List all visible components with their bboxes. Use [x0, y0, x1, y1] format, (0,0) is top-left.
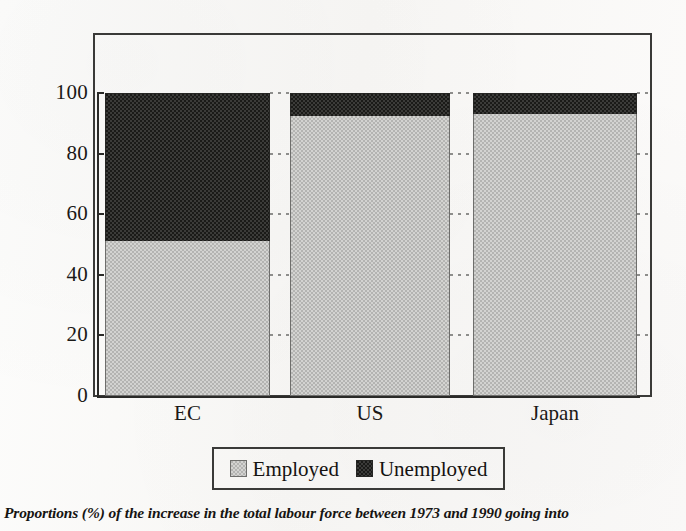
y-tick-label: 100: [56, 82, 88, 103]
gridline-20: [637, 334, 651, 336]
x-axis-line: [97, 396, 640, 398]
gridline-60: [270, 213, 290, 215]
bar-segment-employed-ec: [105, 241, 270, 396]
legend-entry-unemployed: Unemployed: [356, 458, 487, 480]
y-tick-mark: [97, 213, 104, 215]
gridline-60: [450, 213, 473, 215]
bar-us: [290, 93, 450, 396]
y-tick-60: 60: [14, 203, 88, 224]
figure-page: 020406080100 ECUSJapan Employed Unemploy…: [0, 0, 686, 531]
gridline-100: [270, 92, 290, 94]
legend-entry-employed: Employed: [230, 458, 339, 480]
bar-segment-unemployed-japan: [473, 93, 637, 114]
gridline-40: [450, 274, 473, 276]
bar-ec: [105, 93, 270, 396]
gridline-40: [270, 274, 290, 276]
bar-segment-employed-us: [290, 116, 450, 396]
y-tick-100: 100: [14, 82, 88, 103]
gridline-40: [637, 274, 651, 276]
y-tick-label: 0: [77, 385, 88, 406]
category-label-ec: EC: [105, 400, 270, 426]
y-tick-mark: [97, 274, 104, 276]
y-tick-mark: [97, 92, 104, 94]
y-tick-mark: [97, 334, 104, 336]
figure-caption: Proportions (%) of the increase in the t…: [4, 503, 682, 523]
bar-segment-unemployed-ec: [105, 93, 270, 241]
gridline-100: [450, 92, 473, 94]
y-tick-label: 20: [66, 324, 88, 345]
bar-japan: [473, 93, 637, 396]
y-tick-label: 80: [66, 143, 88, 164]
y-tick-label: 60: [66, 203, 88, 224]
bar-segment-employed-japan: [473, 114, 637, 396]
category-label-japan: Japan: [473, 400, 637, 426]
legend-label-employed: Employed: [253, 458, 339, 480]
y-tick-0: 0: [14, 385, 88, 406]
gridline-100: [637, 92, 651, 94]
legend: Employed Unemployed: [212, 447, 505, 490]
y-tick-80: 80: [14, 143, 88, 164]
gridline-80: [450, 153, 473, 155]
y-tick-label: 40: [66, 264, 88, 285]
gridline-20: [270, 334, 290, 336]
y-tick-mark: [97, 153, 104, 155]
bar-segment-unemployed-us: [290, 93, 450, 116]
legend-swatch-unemployed-icon: [356, 460, 373, 477]
gridline-60: [637, 213, 651, 215]
gridline-80: [270, 153, 290, 155]
gridline-20: [450, 334, 473, 336]
y-axis-line: [97, 92, 99, 398]
y-tick-40: 40: [14, 264, 88, 285]
y-tick-20: 20: [14, 324, 88, 345]
gridline-80: [637, 153, 651, 155]
legend-label-unemployed: Unemployed: [379, 458, 487, 480]
legend-swatch-employed-icon: [230, 460, 247, 477]
category-label-us: US: [290, 400, 450, 426]
